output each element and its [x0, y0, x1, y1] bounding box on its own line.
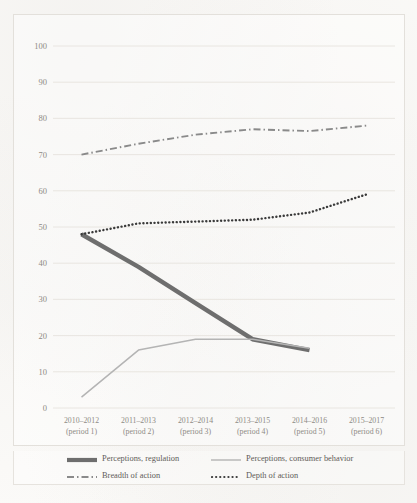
legend-item-depth-of-action: Depth of action: [199, 472, 405, 482]
y-axis-tick-label: 50: [39, 222, 48, 232]
x-axis-tick-label: 2013–2015: [235, 416, 270, 425]
legend-label: Perceptions, consumer behavior: [246, 455, 353, 463]
chart-panel: 10090807060504030201002010–2012(period 1…: [13, 14, 405, 446]
y-axis-tick-label: 100: [34, 41, 47, 51]
y-axis-tick-label: 80: [39, 113, 48, 123]
series-line-1: [82, 339, 310, 397]
x-axis-tick-sublabel: (period 4): [237, 427, 268, 436]
legend-swatch-dash-dot-icon: [67, 472, 97, 482]
legend: Perceptions, regulation Perceptions, con…: [13, 451, 405, 485]
series-line-0: [82, 234, 310, 350]
legend-row-2: Breadth of action Depth of action: [13, 468, 405, 485]
legend-label: Breadth of action: [102, 472, 160, 480]
x-axis-tick-label: 2011–2013: [121, 416, 156, 425]
y-axis-tick-label: 10: [39, 367, 48, 377]
x-axis-tick-sublabel: (period 1): [66, 427, 97, 436]
y-axis-tick-label: 40: [39, 258, 48, 268]
y-axis-tick-label: 20: [39, 331, 48, 341]
y-axis-tick-label: 30: [39, 294, 48, 304]
x-axis-tick-sublabel: (period 2): [123, 427, 154, 436]
series-line-3: [82, 194, 367, 234]
x-axis-tick-sublabel: (period 6): [351, 427, 382, 436]
series-line-2: [82, 126, 367, 155]
x-axis-tick-label: 2010–2012: [64, 416, 99, 425]
legend-row-1: Perceptions, regulation Perceptions, con…: [13, 451, 405, 468]
legend-label: Depth of action: [246, 472, 298, 480]
x-axis-tick-label: 2015–2017: [349, 416, 384, 425]
y-axis-tick-label: 90: [39, 77, 48, 87]
y-axis-tick-label: 70: [39, 150, 48, 160]
x-axis-tick-sublabel: (period 5): [294, 427, 325, 436]
x-axis-tick-label: 2012–2014: [178, 416, 213, 425]
legend-swatch-solid-thick-icon: [67, 455, 97, 465]
legend-swatch-solid-thin-icon: [211, 455, 241, 465]
legend-item-perceptions-regulation: Perceptions, regulation: [13, 455, 199, 465]
legend-label: Perceptions, regulation: [102, 455, 179, 463]
y-axis-tick-label: 0: [43, 403, 47, 413]
line-chart: 10090807060504030201002010–2012(period 1…: [14, 15, 404, 445]
legend-item-breadth-of-action: Breadth of action: [13, 472, 199, 482]
legend-swatch-dotted-icon: [211, 472, 241, 482]
y-axis-tick-label: 60: [39, 186, 48, 196]
legend-item-perceptions-consumer-behavior: Perceptions, consumer behavior: [199, 455, 405, 465]
x-axis-tick-sublabel: (period 3): [180, 427, 211, 436]
x-axis-tick-label: 2014–2016: [292, 416, 327, 425]
